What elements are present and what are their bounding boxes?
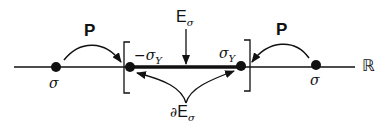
upper-bound-label: σY [219, 45, 235, 61]
boundary-label: ∂Eσ [170, 104, 195, 120]
left-sigma-label: σ [49, 76, 59, 90]
left-sigma-point [51, 62, 61, 72]
lower-bound-point [125, 62, 135, 72]
boundary-arrow-left [137, 73, 186, 103]
elastic-set-label: Eσ [176, 9, 194, 25]
left-projection-label: P [84, 22, 95, 39]
right-sigma-point [311, 60, 321, 70]
right-projection-label: P [276, 21, 287, 38]
right-sigma-label: σ [310, 73, 320, 87]
real-line-label: ℝ [362, 58, 375, 74]
left-projection-arrow [64, 45, 121, 62]
boundary-arrow-right [186, 71, 234, 103]
upper-bound-point [236, 61, 246, 71]
lower-bound-label: −σY [134, 47, 162, 63]
right-projection-arrow [252, 44, 309, 62]
